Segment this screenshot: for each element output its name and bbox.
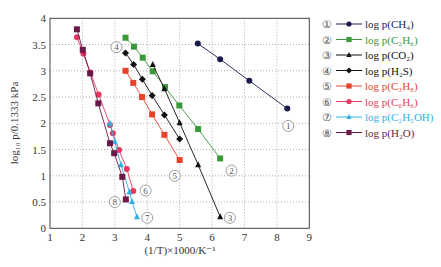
- data-point: [139, 76, 146, 83]
- y-tick-label: 0.5: [32, 196, 46, 208]
- data-point: [177, 157, 183, 163]
- vapor-pressure-chart: 12345678900.511.522.533.54 12345678 ①log…: [0, 0, 441, 267]
- data-point: [150, 61, 156, 67]
- data-point: [149, 92, 156, 99]
- legend-number: ⑥: [322, 96, 332, 108]
- data-point: [346, 99, 351, 104]
- legend-item: ⑧log p(H₂O): [322, 127, 415, 140]
- legend-label: log p(C₂H₅OH): [365, 111, 434, 124]
- data-point: [346, 21, 351, 26]
- legend-number: ⑧: [322, 127, 332, 139]
- data-point: [123, 68, 129, 74]
- legend-number: ②: [322, 34, 332, 46]
- legend-item: ④log p(H₂S): [322, 65, 413, 78]
- x-tick-label: 9: [307, 231, 313, 243]
- x-tick-label: 4: [144, 231, 150, 243]
- legend-item: ⑦log p(C₂H₅OH): [322, 111, 434, 124]
- data-point: [129, 198, 135, 204]
- data-point: [246, 78, 252, 84]
- series-2: 2: [123, 35, 237, 176]
- data-point: [131, 44, 137, 50]
- data-point: [95, 100, 101, 106]
- data-point: [195, 41, 201, 47]
- data-point: [123, 35, 129, 41]
- series-line: [77, 29, 126, 199]
- y-tick-label: 2: [41, 117, 47, 129]
- legend-number: ⑦: [322, 111, 332, 123]
- x-tick-label: 2: [80, 231, 86, 243]
- data-point: [122, 49, 129, 56]
- series-5: 5: [123, 68, 183, 182]
- data-point: [130, 80, 136, 86]
- data-series: 12345678: [74, 26, 294, 223]
- data-point: [284, 106, 290, 112]
- data-point: [111, 150, 117, 156]
- data-point: [149, 111, 155, 117]
- data-point: [74, 26, 80, 32]
- series-number-label: 3: [228, 213, 233, 223]
- legend-label: log p(C₆H₆): [365, 96, 418, 109]
- legend-number: ③: [322, 49, 332, 61]
- series-number-label: 7: [145, 213, 150, 223]
- y-tick-label: 3: [41, 65, 47, 77]
- series-number-label: 1: [286, 121, 291, 131]
- y-tick-label: 2.5: [32, 91, 46, 103]
- data-point: [195, 126, 201, 132]
- legend-item: ①log p(CH₄): [322, 18, 414, 31]
- x-tick-label: 6: [209, 231, 215, 243]
- x-tick-label: 1: [47, 231, 53, 243]
- y-tick-label: 0: [41, 222, 47, 234]
- data-point: [217, 155, 223, 161]
- series-number-label: 4: [114, 42, 119, 52]
- data-point: [134, 213, 140, 219]
- series-number-label: 2: [229, 166, 234, 176]
- series-number-label: 5: [173, 171, 178, 181]
- x-tick-label: 5: [177, 231, 183, 243]
- data-point: [217, 56, 223, 62]
- data-point: [195, 161, 201, 167]
- legend-item: ⑤log p(C₃H₈): [322, 80, 418, 93]
- data-point: [217, 213, 223, 219]
- data-point: [87, 70, 93, 76]
- legend: ①log p(CH₄)②log p(C₂H₆)③log p(CO₂)④log p…: [322, 18, 434, 140]
- data-point: [107, 140, 113, 146]
- data-point: [176, 136, 183, 143]
- legend-number: ①: [322, 18, 332, 30]
- data-point: [123, 196, 129, 202]
- y-tick-label: 1.5: [32, 144, 46, 156]
- data-point: [176, 102, 182, 108]
- legend-item: ③log p(CO₂): [322, 49, 414, 62]
- data-point: [80, 47, 86, 53]
- x-tick-label: 7: [242, 231, 248, 243]
- data-point: [140, 55, 146, 61]
- data-point: [119, 174, 125, 180]
- y-tick-label: 3.5: [32, 39, 46, 51]
- legend-item: ②log p(C₂H₆): [322, 34, 418, 47]
- data-point: [346, 37, 351, 42]
- y-tick-label: 4: [41, 12, 47, 24]
- legend-number: ⑤: [322, 80, 332, 92]
- legend-label: log p(H₂O): [365, 127, 415, 140]
- y-tick-label: 1: [41, 170, 47, 182]
- data-point: [139, 94, 145, 100]
- legend-label: log p(CO₂): [365, 49, 414, 62]
- legend-number: ④: [322, 65, 332, 77]
- series-line: [198, 44, 287, 109]
- legend-item: ⑥log p(C₆H₆): [322, 96, 418, 109]
- data-point: [161, 111, 168, 118]
- legend-label: log p(C₂H₆): [365, 34, 418, 47]
- y-axis-label: log₁₀ p/0.1333 kPa: [8, 82, 20, 165]
- data-point: [346, 130, 351, 135]
- x-tick-label: 3: [112, 231, 118, 243]
- x-axis-label: (1/T)×1000/K⁻¹: [144, 244, 215, 257]
- data-point: [346, 83, 351, 88]
- x-tick-label: 8: [274, 231, 280, 243]
- data-point: [124, 166, 130, 172]
- data-point: [346, 67, 352, 73]
- legend-label: log p(H₂S): [365, 65, 413, 78]
- data-point: [177, 119, 183, 125]
- legend-label: log p(C₃H₈): [365, 80, 418, 93]
- data-point: [130, 61, 137, 68]
- series-number-label: 8: [113, 197, 118, 207]
- legend-label: log p(CH₄): [365, 18, 414, 31]
